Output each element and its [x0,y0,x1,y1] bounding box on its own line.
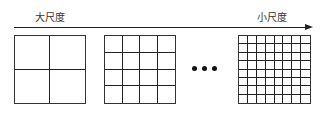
grid-cell [248,70,257,78]
grid-cell [140,86,158,103]
grid-cell [123,70,141,87]
grid-cell [105,53,123,70]
grid-cell [248,78,257,86]
grid-cell [292,36,301,44]
grid-cell [301,61,310,69]
grid-cell [105,36,123,53]
grid-cell [283,53,292,61]
grid-cell [301,36,310,44]
grid-cell [292,78,301,86]
grid-cell [248,53,257,61]
grid-cell [275,70,284,78]
grid-cell [301,95,310,103]
grid-cell [257,36,266,44]
grid-cell [292,53,301,61]
grid-cell [275,86,284,94]
grid-cell [158,86,176,103]
grid-cell [275,44,284,52]
grid-cell [50,36,85,70]
grid-cell [266,78,275,86]
grid-cell [275,53,284,61]
grid-cell [275,95,284,103]
grid-cell [257,70,266,78]
grid-cell [266,44,275,52]
scale-arrow-line [14,27,306,28]
grid-cell [301,53,310,61]
grid-cell [257,86,266,94]
grid-cell [158,70,176,87]
grid-cell [266,95,275,103]
grid-cell [248,44,257,52]
large-scale-label: 大尺度 [35,12,65,24]
grid-cell [283,36,292,44]
grid-4x4 [104,35,176,104]
grid-cell [239,95,248,103]
grid-cell [283,70,292,78]
grid-cell [123,86,141,103]
grid-8x8 [238,35,311,104]
grid-cell [158,36,176,53]
grid-cell [301,70,310,78]
grid-cell [239,86,248,94]
grid-cell [239,61,248,69]
grid-cell [257,44,266,52]
grid-cell [292,61,301,69]
grid-cell [266,36,275,44]
grid-cell [257,53,266,61]
grid-cell [266,61,275,69]
dot-icon [212,66,217,71]
grid-cell [239,53,248,61]
grid-cell [266,70,275,78]
ellipsis-dots [192,66,217,71]
grid-cell [266,53,275,61]
dot-icon [202,66,207,71]
grid-cell [292,70,301,78]
grid-cell [257,78,266,86]
grid-cell [257,61,266,69]
grid-cell [292,44,301,52]
grid-cell [257,95,266,103]
grid-cell [140,36,158,53]
grid-cell [275,78,284,86]
grid-2x2 [14,35,86,104]
grid-cell [275,36,284,44]
grid-cell [283,78,292,86]
grid-cell [105,86,123,103]
grid-cell [283,61,292,69]
grid-cell [15,70,50,104]
grid-cell [140,70,158,87]
grid-cell [248,95,257,103]
small-scale-label: 小尺度 [257,12,287,24]
grid-cell [248,61,257,69]
grid-cell [123,53,141,70]
grid-cell [239,70,248,78]
grid-cell [140,53,158,70]
grid-cell [283,95,292,103]
grid-cell [283,86,292,94]
grid-cell [158,53,176,70]
grid-cell [239,44,248,52]
grid-cell [292,95,301,103]
grid-cell [239,36,248,44]
arrow-head-icon [305,24,313,30]
grid-cell [292,86,301,94]
grid-cell [50,70,85,104]
grid-cell [301,44,310,52]
grid-cell [123,36,141,53]
grid-cell [248,86,257,94]
grid-cell [301,86,310,94]
grid-cell [283,44,292,52]
grid-cell [275,61,284,69]
grid-cell [301,78,310,86]
grid-cell [15,36,50,70]
grid-cell [248,36,257,44]
dot-icon [192,66,197,71]
grid-cell [239,78,248,86]
grid-cell [266,86,275,94]
grid-cell [105,70,123,87]
